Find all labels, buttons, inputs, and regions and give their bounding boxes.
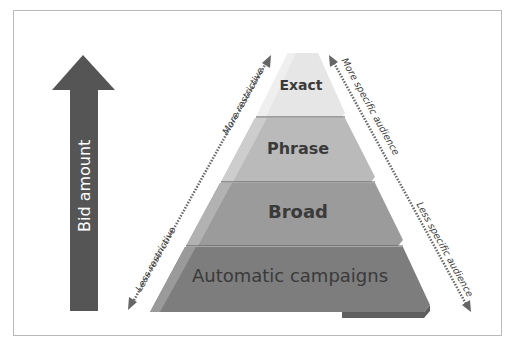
layer-exact-label: Exact <box>279 77 322 93</box>
layer-automatic-campaigns-label: Automatic campaigns <box>192 265 388 286</box>
bid-amount-label: Bid amount <box>75 140 94 232</box>
layer-broad-label: Broad <box>268 201 328 222</box>
layer-phrase-label: Phrase <box>267 139 329 158</box>
